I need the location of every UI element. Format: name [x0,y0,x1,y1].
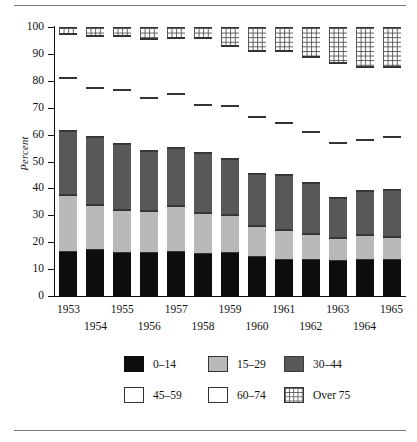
bar-segment [275,260,293,296]
bottom-rule [14,430,406,431]
bar-segment [248,174,266,226]
bar-segment [167,148,185,206]
bar-segment [86,137,104,204]
x-tick-label: 1956 [129,320,169,332]
bar-segment [140,98,158,150]
bar-segment [329,27,347,63]
bar-segment [86,205,104,251]
bar-segment [194,153,212,212]
bar-segment [140,27,158,39]
bar-segment [302,27,320,57]
x-tick-label: 1957 [156,303,196,315]
y-tick-label: 20 [0,236,44,248]
bar-segment [86,250,104,296]
bar-segment [221,215,239,253]
bar-stack [356,27,374,296]
bar-segment [113,90,131,144]
bar-segment [356,140,374,191]
bar-stack [194,27,212,296]
bar-segment [59,131,77,196]
bar-segment [113,27,131,36]
bar-segment [302,234,320,260]
bar-segment [167,252,185,296]
legend-label: 60–74 [237,389,266,401]
bar-segment [302,260,320,296]
bar-segment [383,237,401,260]
x-tick-label: 1959 [210,303,250,315]
bar-segment [167,94,185,148]
bar-segment [113,253,131,296]
bar-segment [275,51,293,122]
bar-segment [113,210,131,253]
legend-label: 0–14 [153,358,176,370]
y-tick-label: 60 [0,129,44,141]
x-tick-label: 1958 [183,320,223,332]
bar-stack [383,27,401,296]
legend-item: 15–29 [208,356,266,372]
bar-stack [140,27,158,296]
bar-stack [86,27,104,296]
bar-segment [86,36,104,87]
bar-segment [167,38,185,94]
x-tick-label: 1965 [372,303,412,315]
top-rule [14,5,406,6]
bar-segment [356,260,374,296]
bar-segment [356,191,374,235]
y-tick-label: 70 [0,102,44,114]
bar-segment [113,36,131,90]
bar-segment [59,195,77,251]
x-tick-label: 1964 [345,320,385,332]
bar-segment [275,230,293,260]
plot-area [55,27,405,296]
bar-segment [248,257,266,296]
y-tick-label: 0 [0,290,44,302]
bar-segment [302,132,320,183]
y-tick-label: 80 [0,75,44,87]
bar-stack [275,27,293,296]
bar-segment [140,253,158,296]
x-tick-label: 1953 [48,303,88,315]
legend-item: 60–74 [208,387,266,403]
x-tick-label: 1954 [75,320,115,332]
x-tick-label: 1962 [291,320,331,332]
bar-stack [113,27,131,296]
bar-segment [248,117,266,173]
legend-swatch [124,356,144,372]
bar-segment [356,67,374,140]
bar-segment [140,39,158,98]
bar-segment [356,235,374,259]
bar-segment [329,63,347,142]
x-tick-label: 1960 [237,320,277,332]
legend-item: 45–59 [124,387,182,403]
bar-segment [356,27,374,67]
x-axis-spine [54,296,406,297]
legend-label: Over 75 [313,389,350,401]
legend-label: 45–59 [153,389,182,401]
bar-stack [221,27,239,296]
bar-segment [59,78,77,130]
x-tick-label: 1963 [318,303,358,315]
legend-swatch [284,387,304,403]
bar-segment [113,144,131,210]
bar-segment [140,211,158,253]
bar-segment [86,88,104,138]
legend-item: 0–14 [124,356,176,372]
legend-item: 30–44 [284,356,342,372]
bar-segment [383,190,401,237]
bar-segment [194,213,212,255]
bar-segment [383,67,401,137]
bar-segment [248,27,266,51]
bar-segment [59,34,77,78]
bar-segment [248,51,266,117]
bar-segment [275,27,293,51]
bar-segment [167,206,185,252]
bar-segment [329,261,347,296]
bar-segment [59,27,77,34]
y-tick-label: 40 [0,182,44,194]
legend-label: 30–44 [313,358,342,370]
bar-stack [59,27,77,296]
figure: Percent 0102030405060708090100 195319541… [0,0,417,442]
bar-stack [302,27,320,296]
x-tick-label: 1955 [102,303,142,315]
bar-stack [329,27,347,296]
